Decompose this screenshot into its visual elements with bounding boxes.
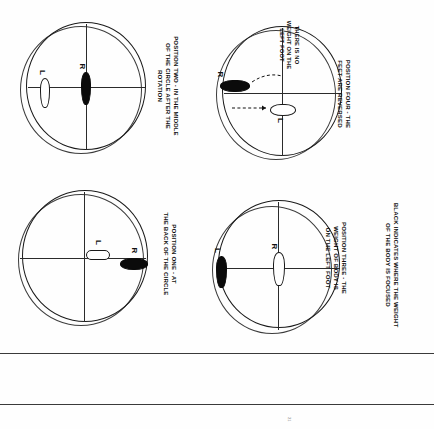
foot-left-weighted bbox=[216, 256, 227, 288]
annotation-no-weight-left-foot: THERE IS NO WEIGHT ON THE LEFT FOOT bbox=[277, 12, 300, 78]
caption-position-two: POSITION TWO - IN THE MIDDLE OF THE CIRC… bbox=[155, 28, 180, 144]
foot-right-weighted bbox=[81, 72, 91, 105]
horizontal-rule-bottom bbox=[0, 404, 434, 405]
scanned-page: R L POSITION TWO - IN THE MIDDLE OF THE … bbox=[0, 0, 434, 429]
diagram-position-one: L R bbox=[16, 188, 150, 332]
foot-label-left: L bbox=[213, 248, 222, 253]
foot-left-unweighted bbox=[40, 78, 50, 108]
foot-right-weighted bbox=[120, 258, 148, 270]
page-number: 21 bbox=[287, 417, 292, 421]
horizontal-rule-top bbox=[0, 353, 434, 354]
foot-label-left: L bbox=[38, 70, 47, 75]
diagram-position-two: R L bbox=[18, 18, 150, 160]
throwing-circle-inner-ring bbox=[22, 190, 148, 322]
legend-black-indicates-weight: BLACK INDICATES WHERE THE WEIGHT OF THE … bbox=[384, 202, 400, 328]
caption-position-four: POSITION FOUR - THE FEET ARE REVERSED bbox=[336, 40, 352, 148]
caption-position-one: POSITION ONE - AT THE BACK OF THE CIRCLE bbox=[162, 200, 178, 308]
foot-label-right: R bbox=[78, 64, 87, 70]
foot-label-right: R bbox=[270, 244, 279, 250]
foot-right-unweighted bbox=[273, 252, 285, 286]
foot-left-unweighted bbox=[86, 250, 110, 260]
foot-label-right: R bbox=[130, 248, 139, 254]
circle-axis-vertical bbox=[84, 192, 85, 322]
foot-label-left: L bbox=[94, 240, 103, 245]
caption-position-three: POSITION THREE - THE WEIGHT OF BODY IS O… bbox=[323, 204, 348, 312]
